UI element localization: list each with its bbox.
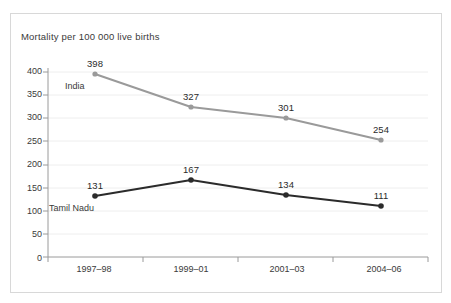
- y-axis: [43, 68, 48, 257]
- data-label-india-3: 301: [266, 102, 306, 113]
- data-label-india-4: 254: [361, 124, 401, 135]
- series-line-india: [92, 71, 383, 142]
- data-point-india-4: [378, 137, 383, 142]
- data-point-tamil-nadu-1: [92, 193, 98, 199]
- series-label-india: India: [65, 81, 85, 91]
- data-point-india-3: [283, 115, 288, 120]
- plot-area: [0, 0, 451, 303]
- series-label-tamil-nadu: Tamil Nadu: [49, 203, 94, 213]
- data-label-tamil-nadu-4: 111: [361, 190, 401, 201]
- data-point-india-1: [92, 71, 97, 76]
- data-label-tamil-nadu-3: 134: [266, 179, 306, 190]
- gridlines: [48, 72, 428, 234]
- figure-container: Mortality per 100 000 live births 400 35…: [0, 0, 451, 303]
- data-label-tamil-nadu-2: 167: [171, 164, 211, 175]
- data-label-india-1: 398: [75, 58, 115, 69]
- x-axis: [48, 257, 428, 262]
- data-point-india-2: [188, 104, 193, 109]
- data-label-india-2: 327: [171, 91, 211, 102]
- series-line-tamil-nadu: [92, 177, 384, 209]
- data-point-tamil-nadu-3: [283, 192, 289, 198]
- data-label-tamil-nadu-1: 131: [75, 180, 115, 191]
- data-point-tamil-nadu-4: [378, 203, 384, 209]
- data-point-tamil-nadu-2: [188, 177, 194, 183]
